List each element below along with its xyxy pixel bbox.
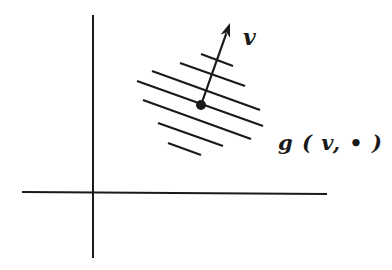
level-line [168,143,201,155]
base-point [196,100,206,110]
diagram-canvas: v g ( v, • ) [0,0,392,270]
vector-label: v [243,24,256,50]
horizontal-axis [22,192,327,194]
covector-label: g ( v, • ) [278,130,383,155]
